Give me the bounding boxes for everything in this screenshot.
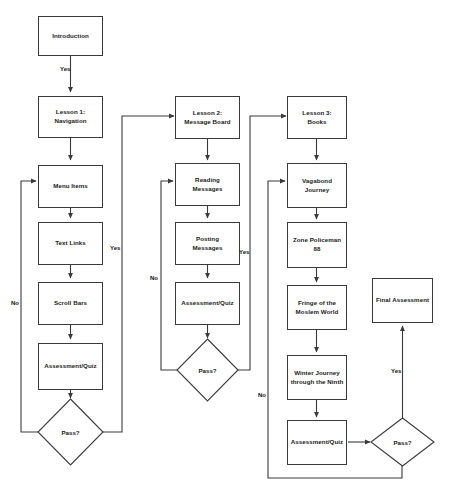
node-assessment-quiz-1[interactable]: Assessment/Quiz xyxy=(38,343,103,390)
node-text-links[interactable]: Text Links xyxy=(38,222,103,265)
node-introduction[interactable]: Introduction xyxy=(38,16,103,56)
node-vagabond-journey-label: Vagabond Journey xyxy=(302,177,332,195)
node-vagabond-journey[interactable]: Vagabond Journey xyxy=(287,163,347,208)
node-reading-messages[interactable]: Reading Messages xyxy=(175,163,240,206)
edge-pass2-yes-to-lesson3 xyxy=(238,116,286,370)
node-reading-messages-label: Reading Messages xyxy=(193,176,223,194)
node-zone-policeman-label: Zone Policeman 88 xyxy=(293,236,341,254)
node-lesson-1[interactable]: Lesson 1: Navigation xyxy=(38,96,103,138)
node-lesson-3-label: Lesson 3: Books xyxy=(302,109,331,127)
node-pass-1-label: Pass? xyxy=(61,429,79,436)
node-pass-3[interactable]: Pass? xyxy=(371,418,434,466)
node-winter-journey[interactable]: Winter Journey through the Ninth xyxy=(287,355,347,400)
node-posting-messages-label: Posting Messages xyxy=(193,235,223,253)
edge-label-pass2-yes: Yes xyxy=(239,249,249,255)
node-assessment-quiz-3-label: Assessment/Quiz xyxy=(291,438,343,447)
node-final-assessment-label: Final Assessment xyxy=(376,296,429,305)
node-menu-items-label: Menu Items xyxy=(53,182,88,191)
node-lesson-1-label: Lesson 1: Navigation xyxy=(54,108,86,126)
node-scroll-bars-label: Scroll Bars xyxy=(54,299,87,308)
node-pass-2[interactable]: Pass? xyxy=(177,339,238,401)
node-pass-1[interactable]: Pass? xyxy=(38,399,103,465)
edge-pass1-yes-to-lesson2 xyxy=(103,116,174,432)
node-lesson-3[interactable]: Lesson 3: Books xyxy=(287,96,347,139)
node-menu-items[interactable]: Menu Items xyxy=(38,165,103,208)
edge-pass1-no-loop xyxy=(21,181,38,432)
node-pass-2-label: Pass? xyxy=(198,367,216,374)
node-final-assessment[interactable]: Final Assessment xyxy=(372,278,433,323)
node-zone-policeman[interactable]: Zone Policeman 88 xyxy=(287,222,347,268)
edge-label-pass1-no: No xyxy=(11,300,19,306)
node-posting-messages[interactable]: Posting Messages xyxy=(175,222,240,265)
node-assessment-quiz-1-label: Assessment/Quiz xyxy=(44,362,96,371)
node-fringe-moslem-world-label: Fringe of the Moslem World xyxy=(296,299,339,317)
node-lesson-2[interactable]: Lesson 2: Message Board xyxy=(175,96,240,139)
node-introduction-label: Introduction xyxy=(52,32,89,41)
node-assessment-quiz-3[interactable]: Assessment/Quiz xyxy=(287,420,347,465)
node-assessment-quiz-2[interactable]: Assessment/Quiz xyxy=(175,282,240,325)
node-scroll-bars[interactable]: Scroll Bars xyxy=(38,282,103,325)
node-assessment-quiz-2-label: Assessment/Quiz xyxy=(181,299,233,308)
edge-label-intro-yes: Yes xyxy=(60,66,70,72)
edge-label-pass3-yes: Yes xyxy=(391,368,401,374)
node-pass-3-label: Pass? xyxy=(393,439,411,446)
node-winter-journey-label: Winter Journey through the Ninth xyxy=(291,369,344,387)
node-lesson-2-label: Lesson 2: Message Board xyxy=(184,109,230,127)
flowchart-canvas: Introduction Lesson 1: Navigation Menu I… xyxy=(0,0,452,494)
node-text-links-label: Text Links xyxy=(55,239,86,248)
node-fringe-moslem-world[interactable]: Fringe of the Moslem World xyxy=(287,285,347,330)
edge-pass2-no-loop xyxy=(161,181,177,370)
edge-label-pass1-yes: Yes xyxy=(110,245,120,251)
edge-label-pass2-no: No xyxy=(150,275,158,281)
edge-label-pass3-no: No xyxy=(258,392,266,398)
